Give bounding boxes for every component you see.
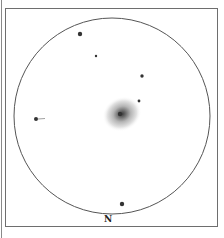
star bbox=[140, 74, 143, 77]
north-label: N bbox=[101, 214, 115, 224]
sketch-canvas bbox=[0, 0, 224, 238]
star bbox=[138, 100, 141, 103]
star bbox=[78, 32, 82, 36]
star-trail bbox=[38, 119, 45, 120]
galaxy-core bbox=[118, 112, 122, 116]
star bbox=[95, 55, 97, 57]
star bbox=[34, 117, 38, 121]
star bbox=[120, 202, 124, 206]
